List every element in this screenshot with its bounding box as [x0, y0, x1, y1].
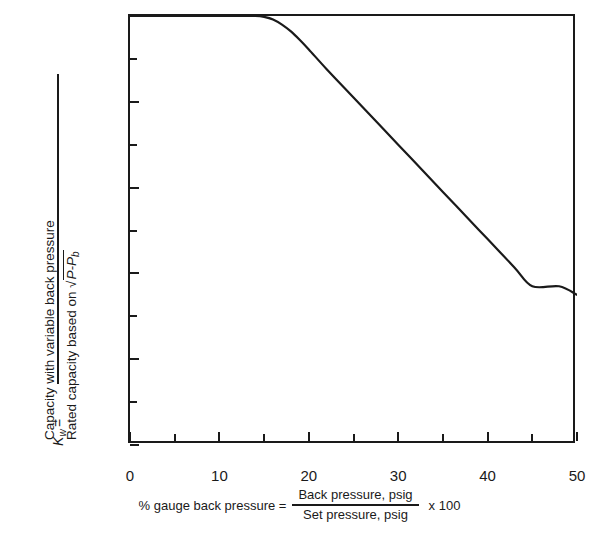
series-kw-correction-factor [130, 16, 577, 295]
chart-figure: Kw= Capacity with variable back pressure… [0, 0, 599, 534]
x-tick-major [487, 432, 489, 441]
y-axis-radicand-subscript: b [70, 251, 81, 257]
x-axis-fraction: Back pressure, psig Set pressure, psig [292, 487, 418, 524]
y-axis-label: Kw= Capacity with variable back pressure… [12, 14, 104, 444]
y-tick-minor [130, 315, 137, 317]
x-tick-major [218, 432, 220, 441]
y-axis-radicand-text: P-P [64, 257, 79, 280]
y-tick-minor [130, 144, 137, 146]
x-axis-denominator: Set pressure, psig [297, 506, 414, 523]
x-tick-minor [174, 434, 176, 441]
x-tick-major [397, 432, 399, 441]
y-axis-fraction-bar [57, 74, 59, 384]
y-tick-major [130, 272, 139, 274]
x-axis-label: % gauge back pressure = Back pressure, p… [0, 487, 599, 524]
x-tick-label: 20 [287, 468, 331, 483]
x-tick-minor [531, 434, 533, 441]
x-tick-minor [353, 434, 355, 441]
x-tick-minor [263, 434, 265, 441]
x-axis-lead: % gauge back pressure = [139, 498, 287, 513]
data-curve-svg [130, 16, 577, 445]
x-tick-label: 40 [466, 468, 510, 483]
x-tick-label: 0 [108, 468, 152, 483]
x-tick-major [308, 432, 310, 441]
y-tick-minor [130, 401, 137, 403]
x-axis-equation: % gauge back pressure = Back pressure, p… [139, 487, 461, 524]
x-tick-minor [442, 434, 444, 441]
x-tick-label: 10 [197, 468, 241, 483]
y-tick-major [130, 187, 139, 189]
x-tick-major [129, 432, 131, 441]
x-tick-label: 30 [376, 468, 420, 483]
y-axis-denominator-text: Rated capacity based on [64, 291, 79, 440]
y-axis-denominator: Rated capacity based on √P-Pb [64, 250, 81, 440]
x-tick-label: 50 [555, 468, 599, 483]
y-tick-minor [130, 58, 137, 60]
y-axis-radicand: P-Pb [63, 250, 79, 280]
plot-area: 0.50.60.70.80.91.0 01020304050 [128, 14, 575, 443]
x-axis-multiplier: x 100 [429, 498, 461, 513]
x-axis-numerator: Back pressure, psig [292, 487, 418, 504]
y-tick-minor [130, 230, 137, 232]
y-tick-major [130, 358, 139, 360]
y-tick-major [130, 444, 139, 446]
sqrt-icon: √ [64, 280, 79, 287]
y-axis-numerator: Capacity with variable back pressure [42, 220, 57, 440]
y-tick-major [130, 15, 139, 17]
y-tick-major [130, 101, 139, 103]
x-tick-major [576, 432, 578, 441]
